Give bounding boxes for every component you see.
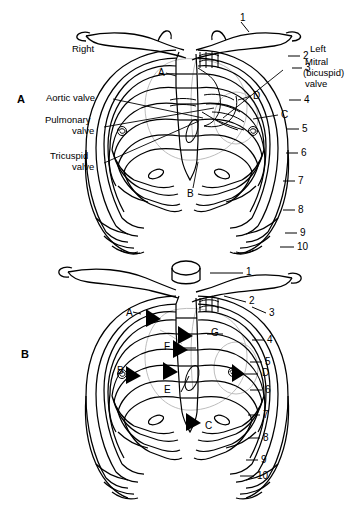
rib-number-2-panel-b: 2 [249,296,255,306]
tricuspid-valve-label-line1: Tricuspid [50,151,88,162]
pulmonary-valve-label-line2: valve [72,126,94,137]
rib-number-2-panel-a: 2 [303,51,309,61]
panel-label-a: A [17,94,25,105]
clavicles-b [59,261,301,302]
rib-number-6-panel-b: 6 [265,385,271,395]
tricuspid-valve-label-line2: valve [72,162,94,173]
rib-number-3-panel-a: 3 [305,63,311,73]
rib-number-9-panel-a: 9 [300,228,306,238]
rib-number-4-panel-a: 4 [304,95,310,105]
rib-number-7-panel-b: 7 [263,410,269,420]
rib-number-6-panel-a: 6 [301,148,307,158]
point-label-f-panel-b: F [164,342,170,352]
aortic-valve-label: Aortic valve [46,93,95,104]
auscultation-arrowheads-b [126,309,245,431]
rib-number-10-panel-b: 10 [257,471,268,481]
right-side-label: Right [72,44,94,55]
left-ribcage-b [194,296,289,499]
right-ribcage-a [85,50,182,254]
left-ribcage-a [194,50,289,254]
rib-number-8-panel-a: 8 [298,205,304,215]
left-side-label: Left [310,44,326,55]
point-label-g-panel-b: G [211,328,219,338]
rib-number-1-panel-a: 1 [240,13,246,23]
panel-a-drawing [77,22,302,254]
arrowhead-d [232,364,245,382]
pulmonary-valve-label-line1: Pulmonary [45,115,90,126]
rib-number-8-panel-b: 8 [263,433,269,443]
arrowhead-b [126,366,141,384]
point-label-d-panel-b: D [262,368,269,378]
point-label-a-panel-b: A [126,308,133,318]
point-label-a-panel-a: A [158,68,165,78]
panel-label-b: B [21,349,29,360]
arrowhead-a [146,309,161,327]
rib-number-5-panel-a: 5 [302,124,308,134]
rib-number-3-panel-b: 3 [269,308,275,318]
point-label-e-panel-b: E [164,385,171,395]
rib-number-5-panel-b: 5 [265,357,271,367]
point-label-b-panel-b: B [117,366,124,376]
rib-number-10-panel-a: 10 [297,242,308,252]
right-ribcage-b [85,296,182,499]
point-label-c-panel-b: C [205,421,212,431]
rib-number-7-panel-a: 7 [298,176,304,186]
rib-number-1-panel-b: 1 [246,267,252,277]
rib-number-9-panel-b: 9 [261,455,267,465]
point-label-c-panel-a: C [281,110,288,120]
point-label-b-panel-a: B [187,189,194,199]
point-label-d-panel-a: D [253,91,260,101]
rib-number-4-panel-b: 4 [267,335,273,345]
arrowhead-c [186,413,201,431]
mitral-valve-label-line3: valve [305,79,327,90]
anatomy-figure: A Right Left Aortic valve Pulmonary valv… [0,0,361,507]
clavicles-a [77,31,301,60]
